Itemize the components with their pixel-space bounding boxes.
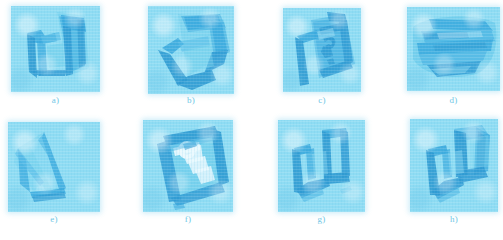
panel-caption-e: e) (8, 214, 100, 224)
specimen-c (283, 8, 361, 92)
specimen-h (410, 119, 498, 212)
specimen-f (143, 120, 233, 212)
panel-image-h (410, 119, 498, 212)
panel-caption-h: h) (410, 214, 498, 224)
panel-image-e (8, 122, 100, 212)
figure-plate: a) b) (0, 0, 503, 240)
specimen-a (11, 6, 100, 92)
specimen-b (148, 6, 234, 94)
panel-caption-g: g) (278, 214, 365, 224)
panel-image-d (407, 7, 500, 91)
panel-image-a (11, 6, 100, 92)
panel-image-g (278, 120, 365, 212)
specimen-g (278, 120, 365, 212)
panel-caption-f: f) (143, 214, 233, 224)
panel-caption-a: a) (11, 95, 100, 105)
specimen-d (407, 7, 500, 91)
panel-caption-b: b) (148, 95, 234, 105)
panel-image-f (143, 120, 233, 212)
panel-image-b (148, 6, 234, 94)
specimen-e (8, 122, 100, 212)
panel-caption-d: d) (407, 95, 500, 105)
panel-caption-c: c) (283, 95, 361, 105)
panel-image-c (283, 8, 361, 92)
